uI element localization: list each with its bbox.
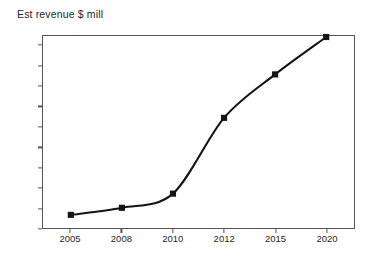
x-axis-tick-label: 2008	[111, 233, 132, 244]
x-axis: 200520082010201220152020	[42, 233, 355, 255]
data-point-marker: 2010: 170	[170, 191, 176, 197]
revenue-line-series: 2005: 652008: 1002010: 1702012: 5452015:…	[43, 36, 354, 228]
x-axis-tick-mark	[224, 229, 225, 233]
x-axis-tick-mark	[326, 229, 327, 233]
x-axis-tick-label: 2015	[265, 233, 286, 244]
chart-figure: Est revenue $ mill 010020030040050060070…	[0, 0, 365, 263]
x-axis-tick-label: 2005	[59, 233, 80, 244]
series-line	[71, 37, 326, 215]
x-axis-tick-mark	[69, 229, 70, 233]
data-point-marker: 2008: 100	[119, 205, 125, 211]
x-axis-tick-label: 2012	[214, 233, 235, 244]
data-point-marker: 2012: 545	[221, 115, 227, 121]
x-axis-tick-label: 2020	[316, 233, 337, 244]
data-point-marker: 2020: 945	[323, 34, 329, 40]
data-point-marker: 2005: 65	[68, 212, 74, 218]
y-axis: 0100200300400500600700800900	[0, 0, 42, 263]
x-axis-tick-mark	[121, 229, 122, 233]
x-axis-tick-mark	[275, 229, 276, 233]
plot-area: 2005: 652008: 1002010: 1702012: 5452015:…	[42, 35, 355, 229]
x-axis-tick-label: 2010	[162, 233, 183, 244]
x-axis-tick-mark	[172, 229, 173, 233]
data-point-marker: 2015: 760	[272, 71, 278, 77]
